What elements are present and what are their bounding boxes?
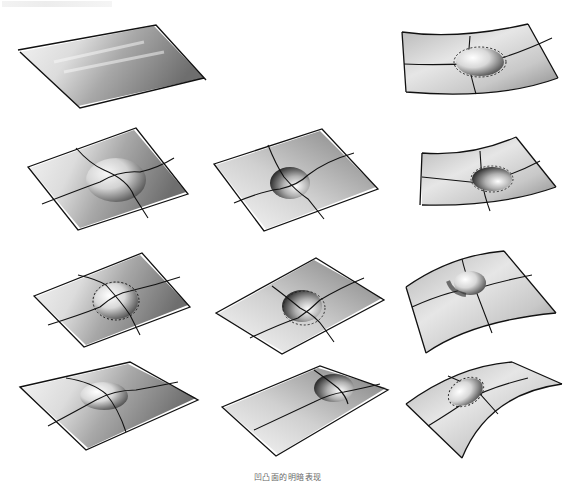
sketch-plane-bump-r4c1 bbox=[18, 360, 198, 455]
sketch-curved-bump-top-right bbox=[398, 22, 568, 112]
sketch-curved-dent-r2c3 bbox=[410, 135, 560, 230]
figure-caption: 凹凸面的明暗表现 bbox=[0, 471, 575, 482]
sketch-flat-plane bbox=[14, 22, 214, 112]
faded-header-text bbox=[2, 1, 112, 7]
sketch-curved-bump-r3c3 bbox=[392, 245, 567, 355]
sketch-plane-dent-r3c2 bbox=[210, 248, 385, 358]
sketch-plane-bump-r2c1 bbox=[28, 120, 198, 235]
sketch-plane-bump-outlined-r3c1 bbox=[30, 245, 200, 355]
sketch-plane-dent-r2c2 bbox=[212, 125, 382, 235]
sketch-plane-dent-r4c2 bbox=[218, 358, 393, 458]
sketch-curved-bump-r4c3 bbox=[398, 358, 568, 463]
